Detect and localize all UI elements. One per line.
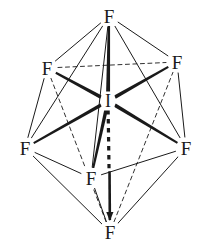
edge-left-to-front [35, 153, 81, 174]
edge-top-to-back-left [55, 23, 100, 61]
atom-label-i: I [105, 92, 111, 111]
edge-bottom-to-back-right-hidden [114, 72, 173, 222]
atom-label-f7: F [105, 223, 116, 242]
atom-label-f3: F [172, 53, 183, 72]
edge-back-left-to-left [28, 79, 44, 138]
bond-I-F-axial-bottom-arrow-tip [106, 212, 113, 221]
atom-label-f2: F [42, 59, 53, 78]
atom-label-f4: F [20, 139, 31, 158]
edge-top-to-left [31, 25, 103, 138]
atom-label-f6: F [86, 169, 97, 188]
molecule-drawing [0, 0, 205, 249]
bond-I-F-equatorial-back-left [55, 72, 102, 99]
molecular-structure-figure: IFFFFFFF [0, 0, 205, 249]
bond-I-F-equatorial-front [92, 108, 108, 168]
edge-top-to-back-right [118, 22, 168, 56]
bond-I-F-axial-bottom-dashed-segment [108, 110, 109, 168]
bond-I-F-equatorial-left [33, 103, 102, 144]
atom-label-f1: F [104, 7, 115, 26]
bond-I-F-equatorial-right [114, 104, 178, 144]
atom-label-f5: F [181, 139, 192, 158]
edge-back-left-to-back-right-hidden [58, 63, 166, 68]
edge-bottom-to-front [95, 188, 107, 221]
bonds-layer [33, 26, 178, 221]
edge-back-right-to-right [178, 73, 185, 137]
edge-bottom-to-left [33, 156, 102, 225]
cage-edges-layer [28, 22, 185, 224]
